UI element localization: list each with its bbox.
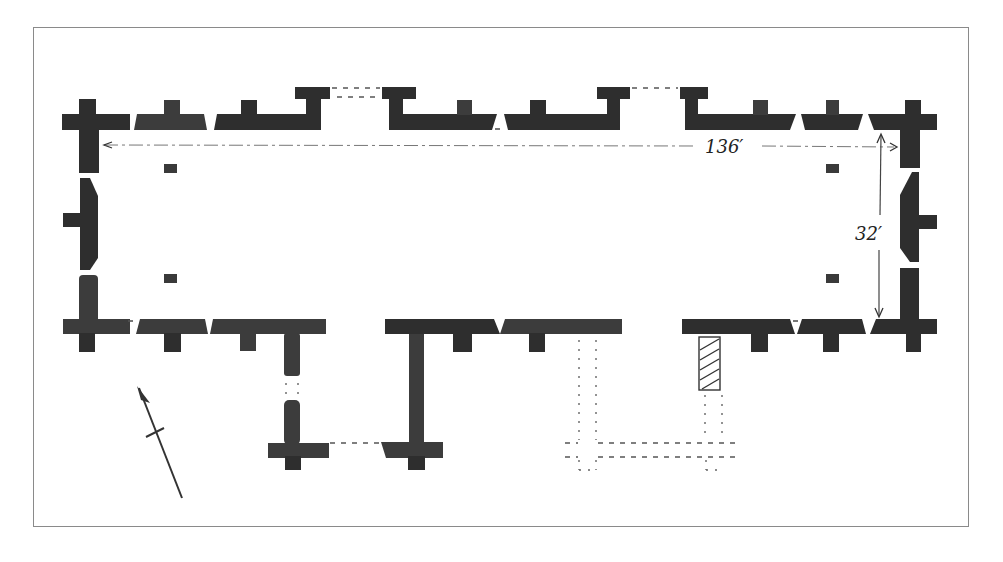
north-arrow-shaft [139, 388, 182, 498]
east-wall [900, 128, 937, 323]
buttress [905, 100, 921, 115]
buttress [530, 100, 546, 115]
porch-wall [284, 400, 300, 445]
porch-wall [607, 95, 620, 130]
wall-segment [63, 319, 130, 334]
wall-segment [797, 319, 866, 334]
porch-wall [381, 442, 443, 458]
buttress [241, 100, 257, 115]
wall-segment [214, 114, 312, 130]
interior-piers [164, 164, 839, 283]
wall-segment [900, 128, 920, 168]
width-label: 32′ [855, 223, 882, 244]
length-label: 136′ [705, 136, 743, 157]
west-wall [63, 128, 99, 323]
buttress [917, 215, 937, 229]
buttress [529, 333, 545, 352]
buttress [906, 333, 921, 352]
porch-wall [268, 443, 329, 458]
buttress [79, 99, 96, 116]
porch-wall [306, 95, 321, 130]
width-dimension: 32′ [855, 134, 885, 317]
wall-segment [868, 114, 937, 130]
wall-segment [389, 114, 497, 130]
buttress [285, 456, 301, 470]
buttress [240, 333, 256, 351]
dimension-line [104, 145, 696, 146]
buttress [751, 333, 768, 352]
buttress [408, 456, 425, 470]
wall-segment [900, 268, 919, 323]
porch-wall [409, 334, 424, 444]
buttress [164, 100, 180, 115]
north-arrow-icon [137, 386, 182, 498]
pier [164, 164, 177, 173]
buttress [826, 100, 839, 115]
buttress [453, 333, 472, 352]
wall-segment [79, 275, 98, 323]
wall-segment [801, 114, 863, 130]
wall-segment [685, 114, 796, 130]
wall-segment [210, 319, 326, 334]
length-dimension: 136′ [104, 136, 897, 157]
wall-segment [900, 172, 919, 262]
wall-segment [79, 128, 99, 173]
buttress [457, 100, 472, 115]
wall-segment [385, 319, 500, 334]
wall-segment [136, 319, 208, 334]
porch-wall [284, 333, 300, 376]
buttress [79, 333, 95, 352]
pier [164, 274, 177, 283]
wall-segment [500, 319, 622, 334]
buttress [753, 100, 768, 115]
north-wall [62, 87, 937, 130]
hatched-later-wall [699, 337, 720, 390]
wall-segment [134, 114, 207, 130]
south-wall [63, 319, 937, 470]
wall-segment [62, 114, 130, 130]
wall-segment [504, 114, 620, 130]
buttress [823, 333, 839, 352]
buttress [164, 333, 181, 352]
buttress [63, 213, 81, 227]
wall-segment [80, 178, 98, 270]
wall-segment [870, 319, 937, 334]
pier [826, 164, 839, 173]
pier [826, 274, 839, 283]
wall-segment [682, 319, 795, 334]
floor-plan: 136′ 32′ [0, 0, 1003, 562]
dimension-line [762, 146, 894, 147]
